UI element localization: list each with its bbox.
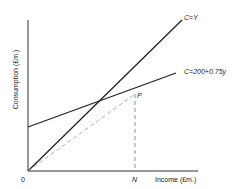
dashed-line-origin-to-p: [28, 94, 135, 171]
line-consumption-function: [28, 73, 176, 127]
point-p-label: P: [137, 92, 142, 99]
line-c-equals-y: [28, 20, 182, 171]
diagram-canvas: [0, 0, 240, 189]
origin-label: 0: [21, 176, 25, 183]
x-axis-label: Income (£m.): [155, 176, 196, 183]
line-c-equals-y-label: C=Y: [184, 14, 198, 21]
y-axis-label: Consumption (£m.): [12, 35, 19, 125]
line-consumption-function-label: C=200+0.75y: [184, 68, 226, 75]
point-n-label: N: [132, 176, 137, 183]
